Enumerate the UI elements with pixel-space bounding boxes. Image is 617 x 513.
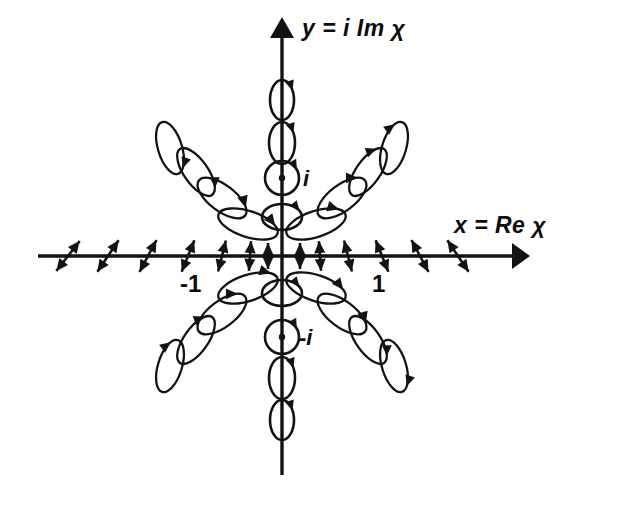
ellipse-outline bbox=[215, 202, 282, 246]
polarization-ellipse bbox=[166, 308, 221, 370]
ellipses-upper-right-quadrant bbox=[281, 117, 413, 246]
linear-arrowhead-b bbox=[262, 257, 273, 269]
polarization-ellipse bbox=[191, 166, 256, 226]
x-axis-label: x = Re χ bbox=[454, 214, 546, 237]
polarization-ellipse bbox=[338, 140, 393, 202]
ellipse-rotation-arrowhead bbox=[356, 307, 373, 324]
linear-arrowhead-b bbox=[294, 243, 305, 255]
polarization-ellipse bbox=[342, 308, 397, 370]
linear-arrowhead-a bbox=[294, 257, 305, 269]
polarization-ellipse bbox=[370, 117, 413, 177]
polarization-ellipse bbox=[151, 117, 194, 177]
circle-centre-dot bbox=[279, 175, 285, 181]
ellipse-rotation-arrowhead bbox=[361, 143, 376, 158]
circle-rotation-arrowhead bbox=[288, 318, 297, 329]
y-tick-label-negative-i: -i bbox=[299, 327, 312, 349]
polarization-ellipse bbox=[375, 335, 418, 395]
x-tick-label-negative-one: -1 bbox=[180, 272, 201, 296]
linear-arrowhead-b bbox=[314, 241, 325, 253]
linear-arrowhead-b bbox=[244, 259, 255, 271]
ellipse-rotation-arrowhead bbox=[189, 311, 204, 326]
circle-rotation-arrowhead bbox=[290, 200, 300, 211]
ellipse-outline bbox=[283, 202, 350, 246]
ellipse-rotation-arrowhead bbox=[403, 372, 416, 386]
linear-arrowhead-a bbox=[107, 240, 118, 253]
y-tick-label-i: i bbox=[303, 168, 309, 190]
ellipse-rotation-arrowhead bbox=[331, 275, 346, 289]
circle-rotation-arrowhead bbox=[290, 276, 300, 287]
polarization-ellipse-diagram: y = i Im χ x = Re χ -1 1 i -i bbox=[0, 0, 617, 513]
diagram-canvas bbox=[0, 0, 617, 513]
polarization-ellipse bbox=[146, 335, 189, 395]
ellipse-rotation-arrowhead bbox=[324, 199, 339, 213]
x-axis-arrowhead bbox=[512, 243, 530, 269]
linear-arrowhead-b bbox=[447, 240, 458, 253]
y-axis-label: y = i Im χ bbox=[302, 17, 405, 40]
ellipse-outline bbox=[311, 170, 373, 226]
ellipse-outline bbox=[170, 142, 222, 202]
polarization-ellipse bbox=[170, 140, 225, 202]
linear-arrowhead-a bbox=[262, 243, 273, 255]
ellipses-upper-left-quadrant bbox=[151, 117, 283, 246]
y-axis-arrowhead bbox=[270, 17, 294, 38]
ellipse-outline bbox=[151, 119, 190, 178]
polarization-ellipse bbox=[308, 166, 373, 226]
linear-arrowhead-a bbox=[245, 241, 256, 253]
ellipse-rotation-arrowhead bbox=[381, 121, 394, 135]
ellipse-outline bbox=[375, 119, 414, 178]
ellipses-lower-left-quadrant bbox=[146, 261, 281, 395]
linear-arrowhead-a bbox=[457, 259, 468, 272]
ellipse-outline bbox=[375, 337, 414, 396]
ellipse-outline bbox=[151, 337, 190, 396]
ellipse-rotation-arrowhead bbox=[157, 339, 170, 353]
linear-arrowhead-a bbox=[315, 259, 326, 271]
circle-centre-dot bbox=[279, 334, 285, 340]
x-tick-label-positive-one: 1 bbox=[372, 272, 385, 296]
linear-arrowhead-b bbox=[97, 259, 108, 272]
ellipse-rotation-arrowhead bbox=[179, 154, 192, 168]
ellipse-rotation-arrowhead bbox=[236, 191, 253, 208]
